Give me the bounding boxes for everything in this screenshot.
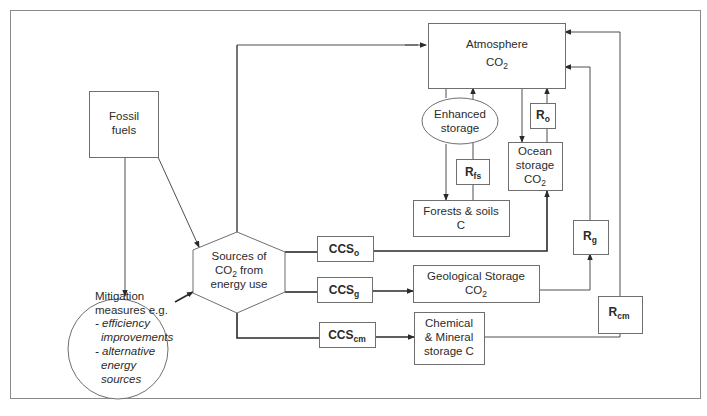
sources-label-3: energy use <box>211 278 268 290</box>
label-r-cm: Rcm <box>599 297 643 334</box>
fossil-label-1: Fossil <box>109 110 139 122</box>
forests-label-2: C <box>457 219 465 231</box>
arrow-rcm-to-atm <box>565 32 620 296</box>
node-sources-hexagon: Sources of CO2 from energy use <box>193 232 285 313</box>
forests-label-1: Forests & soils <box>423 205 499 217</box>
node-geological-storage: Geological Storage CO2 <box>414 266 540 303</box>
label-ccs-cm: CCScm <box>320 323 376 348</box>
mitigation-label-1: Mitigation <box>95 290 144 302</box>
co2-flow-diagram: Atmosphere CO2 Fossil fuels Sources of C… <box>0 0 707 416</box>
arrow-mitigation-to-sources <box>175 292 193 302</box>
fossil-label-2: fuels <box>112 124 137 136</box>
label-r-o: Ro <box>531 104 556 129</box>
arrow-rg-to-atm <box>565 67 590 220</box>
enhanced-label-1: Enhanced <box>434 108 486 120</box>
arrow-fossil-to-sources <box>158 157 199 247</box>
atmosphere-label: Atmosphere <box>466 38 528 50</box>
sources-label-1: Sources of <box>212 250 268 262</box>
node-fossil-fuels: Fossil fuels <box>90 92 159 158</box>
mitigation-item: - alternative <box>95 345 155 357</box>
chemical-label-3: storage C <box>424 345 474 357</box>
mitigation-item: improvements <box>101 331 173 343</box>
mitigation-item: - efficiency <box>95 317 151 329</box>
label-ccs-o: CCSo <box>318 237 374 262</box>
mitigation-item: energy <box>101 359 137 371</box>
label-ccs-g: CCSg <box>318 278 373 303</box>
line-sources-to-ccscm <box>237 313 319 338</box>
label-r-fs: Rfs <box>457 160 490 185</box>
node-chemical-mineral: Chemical & Mineral storage C <box>415 313 485 365</box>
ocean-label-1: Ocean <box>518 145 552 157</box>
node-mitigation: Mitigation measures e.g. - efficiency im… <box>68 290 173 399</box>
geological-label-1: Geological Storage <box>427 270 525 282</box>
enhanced-label-2: storage <box>441 122 479 134</box>
node-forests-soils: Forests & soils C <box>414 201 510 237</box>
mitigation-label-2: measures e.g. <box>95 304 168 316</box>
ocean-label-2: storage <box>516 159 554 171</box>
chemical-label-1: Chemical <box>425 317 473 329</box>
arrow-sources-to-atmosphere <box>237 45 418 232</box>
node-atmosphere: Atmosphere CO2 <box>429 24 566 89</box>
node-ocean-storage: Ocean storage CO2 <box>509 143 563 191</box>
node-enhanced-storage: Enhanced storage <box>422 98 498 144</box>
chemical-label-2: & Mineral <box>425 331 474 343</box>
arrow-geological-to-rg <box>539 254 590 290</box>
mitigation-item: sources <box>101 373 142 385</box>
label-r-g: Rg <box>574 221 609 255</box>
